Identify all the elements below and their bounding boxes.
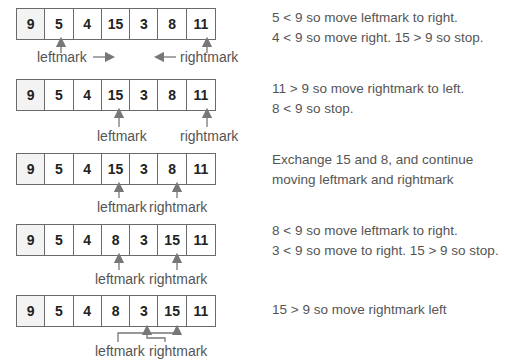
array-cell: 4: [74, 225, 102, 255]
leftmark-crossed-arrow-icon: [118, 330, 177, 342]
array-row: 9 5 4 15 3 8 11: [16, 153, 216, 185]
rightmark-label: rightmark: [149, 199, 207, 215]
array-cell: 15: [158, 225, 186, 255]
array-cell: 5: [45, 9, 73, 39]
leftmark-label: leftmark: [37, 49, 87, 65]
array-cell: 11: [187, 154, 215, 184]
array-cell: 11: [187, 9, 215, 39]
array-cell: 8: [102, 225, 130, 255]
array-cell: 3: [130, 225, 158, 255]
array-cell: 4: [74, 80, 102, 110]
array-cell: 3: [130, 296, 158, 326]
array-cell: 5: [45, 154, 73, 184]
array-cell: 5: [45, 296, 73, 326]
array-cell-pivot: 9: [17, 296, 45, 326]
array-cell: 4: [74, 9, 102, 39]
array-cell: 11: [187, 225, 215, 255]
leftmark-label: leftmark: [97, 128, 147, 144]
array-row: 9 5 4 15 3 8 11: [16, 79, 216, 111]
array-cell: 15: [102, 9, 130, 39]
step-note: 8 < 9 so move leftmark to right. 3 < 9 s…: [272, 221, 499, 261]
array-cell: 15: [102, 154, 130, 184]
array-cell: 8: [158, 80, 186, 110]
rightmark-label: rightmark: [180, 49, 238, 65]
array-cell: 8: [158, 9, 186, 39]
array-cell: 8: [158, 154, 186, 184]
array-cell: 5: [45, 225, 73, 255]
array-cell: 11: [187, 80, 215, 110]
leftmark-label: leftmark: [95, 271, 145, 287]
array-row: 9 5 4 8 3 15 11: [16, 224, 216, 256]
rightmark-label: rightmark: [149, 271, 207, 287]
array-cell: 4: [74, 154, 102, 184]
array-cell: 11: [187, 296, 215, 326]
rightmark-label: rightmark: [149, 343, 207, 359]
array-cell: 3: [130, 154, 158, 184]
array-cell: 5: [45, 80, 73, 110]
array-cell: 15: [158, 296, 186, 326]
step-note: 15 > 9 so move rightmark left: [272, 300, 446, 320]
array-cell: 4: [74, 296, 102, 326]
rightmark-label: rightmark: [180, 128, 238, 144]
array-row: 9 5 4 15 3 8 11: [16, 8, 216, 40]
array-cell: 15: [102, 80, 130, 110]
array-cell: 3: [130, 9, 158, 39]
array-cell-pivot: 9: [17, 154, 45, 184]
step-note: 5 < 9 so move leftmark to right. 4 < 9 s…: [272, 8, 484, 48]
array-row: 9 5 4 8 3 15 11: [16, 295, 216, 327]
leftmark-label: leftmark: [97, 199, 147, 215]
array-cell-pivot: 9: [17, 9, 45, 39]
leftmark-label: leftmark: [95, 343, 145, 359]
array-cell: 8: [102, 296, 130, 326]
array-cell-pivot: 9: [17, 225, 45, 255]
step-note: 11 > 9 so move rightmark to left. 8 < 9 …: [272, 79, 464, 119]
array-cell: 3: [130, 80, 158, 110]
rightmark-crossed-arrow-icon: [147, 330, 165, 342]
step-note: Exchange 15 and 8, and continue moving l…: [272, 150, 473, 190]
array-cell-pivot: 9: [17, 80, 45, 110]
